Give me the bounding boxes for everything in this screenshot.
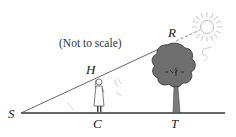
label-s: S bbox=[8, 106, 15, 121]
pencil-tick-mark bbox=[68, 103, 73, 110]
label-c: C bbox=[93, 116, 102, 131]
sun-icon bbox=[192, 12, 222, 42]
pencil-scribble-5 bbox=[202, 47, 212, 61]
pencil-scribble bbox=[114, 78, 121, 96]
tree-icon bbox=[152, 43, 195, 113]
person-icon bbox=[94, 79, 104, 112]
label-t: T bbox=[171, 116, 179, 131]
not-to-scale-note: (Not to scale) bbox=[59, 37, 122, 50]
similar-triangles-diagram: (Not to scale) R H S C T bbox=[0, 0, 236, 137]
label-h: H bbox=[85, 62, 96, 77]
label-r: R bbox=[167, 25, 176, 40]
